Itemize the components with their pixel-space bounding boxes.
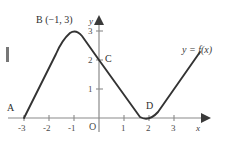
point-label-D: D [146,101,153,111]
x-tick-label--1: -1 [68,124,76,133]
y-tick-label-1: 1 [88,85,93,94]
y-tick-label-2: 2 [88,56,93,65]
x-axis-label: x [196,124,200,133]
function-label: y = f(x) [182,45,212,55]
figure-container: -3 -2 -1 1 2 3 1 2 3 O y x A B (−1, 3) C… [0,0,236,145]
point-label-B: B (−1, 3) [36,15,72,25]
x-tick-label-3: 3 [171,124,176,133]
y-axis-label: y [89,17,93,26]
x-tick-label-2: 2 [146,124,151,133]
y-tick-label-3: 3 [88,27,93,36]
x-tick-label--2: -2 [43,124,51,133]
point-label-A: A [7,103,14,113]
x-tick-label-1: 1 [121,124,126,133]
y-axis-arrowhead [94,15,104,25]
origin-label: O [89,122,96,132]
x-tick-label--3: -3 [18,124,26,133]
point-label-C: C [105,54,112,64]
function-curve [24,32,200,119]
x-axis-arrowhead [201,113,211,123]
